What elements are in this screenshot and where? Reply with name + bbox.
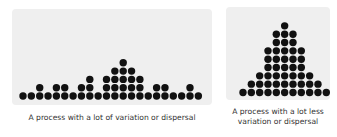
data-dot [314,80,321,87]
data-dot [273,30,280,37]
data-dot [170,92,177,99]
data-dot [273,55,280,62]
data-dot [86,84,93,91]
data-dot [298,80,305,87]
data-dot [111,92,118,99]
caption-line-2: variation or dispersal [222,117,334,127]
data-dot [281,80,288,87]
data-dot [36,92,43,99]
data-dot [264,89,271,96]
data-dot [111,67,118,74]
data-dot [273,47,280,54]
data-dot [136,76,143,83]
data-dot [128,76,135,83]
data-dot [239,89,246,96]
data-dot [94,92,101,99]
data-dot [273,64,280,71]
data-dot [120,84,127,91]
data-dot [53,84,60,91]
data-dot [298,89,305,96]
data-dot [256,72,263,79]
data-dot [120,92,127,99]
data-dot [289,89,296,96]
data-dot [136,92,143,99]
high-variation-caption: A process with a lot of variation or dis… [12,113,212,123]
data-dot [103,92,110,99]
data-dot [323,89,330,96]
data-dot [306,72,313,79]
data-dot [120,67,127,74]
data-dot [36,84,43,91]
data-dot [69,92,76,99]
data-dot [289,47,296,54]
data-dot [111,84,118,91]
data-dot [120,59,127,66]
data-dot [273,39,280,46]
data-dot [256,80,263,87]
data-dot [53,92,60,99]
data-dot [264,55,271,62]
data-dot [281,30,288,37]
data-dot [298,72,305,79]
data-dot [264,72,271,79]
data-dot [273,89,280,96]
data-dot [136,84,143,91]
data-dot [281,55,288,62]
data-dot [153,92,160,99]
data-dot [44,92,51,99]
data-dot [78,92,85,99]
data-dot [178,92,185,99]
data-dot [128,84,135,91]
data-dot [103,84,110,91]
data-dot [103,76,110,83]
data-dot [186,92,193,99]
data-dot [120,76,127,83]
data-dot [314,89,321,96]
data-dot [306,80,313,87]
data-dot [289,64,296,71]
data-dot [128,92,135,99]
data-dot [273,72,280,79]
data-dot [145,92,152,99]
data-dot [289,30,296,37]
data-dot [256,89,263,96]
data-dot [281,47,288,54]
data-dot [306,89,313,96]
data-dot [61,92,68,99]
data-dot [161,84,168,91]
data-dot [248,89,255,96]
data-dot [186,84,193,91]
low-variation-caption: A process with a lot less variation or d… [222,107,334,127]
data-dot [161,92,168,99]
data-dot [281,22,288,29]
data-dot [61,84,68,91]
caption-line-1: A process with a lot less [222,107,334,117]
data-dot [289,55,296,62]
data-dot [281,64,288,71]
data-dot [289,80,296,87]
data-dot [28,92,35,99]
data-dot [86,76,93,83]
data-dot [289,72,296,79]
data-dot [298,64,305,71]
data-dot [289,39,296,46]
data-dot [281,39,288,46]
data-dot [281,89,288,96]
data-dot [195,92,202,99]
data-dot [273,80,280,87]
high-variation-dots [19,59,202,100]
data-dot [298,55,305,62]
data-dot [19,92,26,99]
data-dot [78,84,85,91]
data-dot [264,47,271,54]
data-dot [86,92,93,99]
low-variation-dots [239,22,330,96]
data-dot [281,72,288,79]
data-dot [264,64,271,71]
data-dot [111,76,118,83]
data-dot [153,84,160,91]
data-dot [128,67,135,74]
data-dot [298,47,305,54]
data-dot [248,80,255,87]
data-dot [264,80,271,87]
